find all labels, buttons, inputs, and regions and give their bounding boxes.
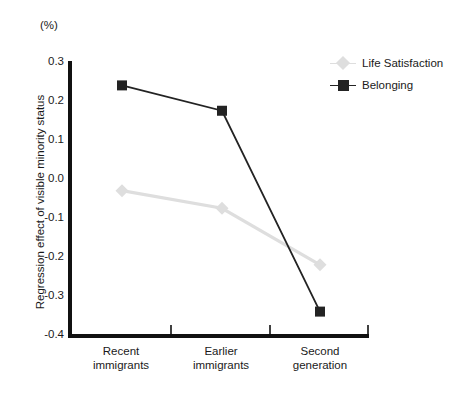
data-point-marker <box>315 307 325 317</box>
chart-figure: (%) Regression effect of visible minorit… <box>0 0 464 398</box>
legend-square-marker-icon <box>330 76 356 94</box>
legend-item-life-satisfaction: Life Satisfaction <box>330 52 464 74</box>
data-point-marker <box>313 258 326 271</box>
data-point-marker <box>215 202 228 215</box>
legend-label: Belonging <box>356 79 413 91</box>
legend-item-belonging: Belonging <box>330 74 464 96</box>
legend-diamond-marker-icon <box>330 54 356 72</box>
series-line-life-satisfaction <box>122 191 320 265</box>
data-point-marker <box>115 184 128 197</box>
data-point-marker <box>217 106 227 116</box>
chart-legend: Life Satisfaction Belonging <box>330 52 464 96</box>
series-line-belonging <box>122 85 320 311</box>
data-series-group <box>115 80 326 316</box>
x-tick-label-second-generation: Second generation <box>260 344 380 372</box>
data-point-marker <box>117 80 127 90</box>
axis-lines <box>68 61 369 336</box>
legend-label: Life Satisfaction <box>356 57 443 69</box>
